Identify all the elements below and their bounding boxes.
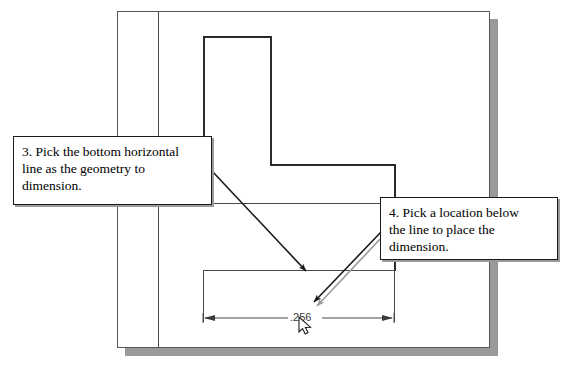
callout-3-line-3: dimension. xyxy=(22,177,204,194)
callout-box-step-4: 4. Pick a location below the line to pla… xyxy=(380,197,558,260)
part-line-interior-horizontal xyxy=(203,203,395,204)
tutorial-figure: .256 3. Pick the bottom horizontal line … xyxy=(0,0,568,365)
callout-3-line-2: line as the geometry to xyxy=(22,160,204,177)
callout-4-line-1: 4. Pick a location below xyxy=(389,204,550,221)
dimension-value-label[interactable]: .256 xyxy=(288,312,313,323)
callout-4-line-2: the line to place the xyxy=(389,221,550,238)
part-edge-step-horizontal xyxy=(270,164,395,166)
part-bottom-horizontal-line[interactable] xyxy=(203,270,395,271)
part-edge-arm-right-vertical xyxy=(270,36,272,165)
callout-box-step-3: 3. Pick the bottom horizontal line as th… xyxy=(13,136,212,205)
extension-line-right xyxy=(394,270,395,322)
extension-line-left xyxy=(203,270,204,322)
callout-3-line-1: 3. Pick the bottom horizontal xyxy=(22,143,204,160)
callout-4-line-3: dimension. xyxy=(389,238,550,255)
part-edge-top xyxy=(203,36,271,38)
